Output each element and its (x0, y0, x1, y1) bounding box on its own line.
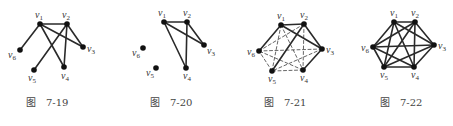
figure-caption: 图 7-20 (150, 97, 192, 108)
vertex-label-v2: v2 (62, 9, 70, 22)
vertex-v4 (61, 64, 67, 70)
vertex-v3 (431, 42, 437, 48)
edge-v2-v3 (187, 22, 204, 45)
vertex-group: v1v2v3v4v5v6 (8, 9, 95, 85)
figure-7-19: v1v2v3v4v5v6 图 7-19 (8, 9, 95, 108)
edge-v1-v2 (281, 24, 304, 25)
vertex-v6 (17, 47, 23, 53)
vertex-label-v3: v3 (207, 45, 215, 58)
figure-7-21: v1v2v3v4v5v6 图 7-21 (247, 9, 334, 108)
edge-group (373, 22, 434, 67)
vertex-label-v6: v6 (361, 42, 369, 55)
edge-v2-v3 (415, 22, 434, 45)
vertex-label-v4: v4 (300, 72, 308, 85)
edge-v3-v6 (373, 45, 434, 47)
vertex-label-v6: v6 (8, 49, 16, 62)
vertex-v6 (370, 44, 376, 50)
edge-v2-v4 (186, 22, 187, 68)
edge-v3-v4 (414, 45, 434, 67)
vertex-v6 (256, 48, 262, 54)
figure-caption: 图 7-22 (380, 97, 422, 108)
edge-v2-v4 (64, 24, 67, 67)
vertex-v3 (201, 42, 207, 48)
vertex-v2 (301, 21, 307, 27)
vertex-label-v5: v5 (268, 73, 276, 86)
edge-group (20, 24, 83, 70)
vertex-label-v1: v1 (158, 7, 166, 20)
vertex-label-v3: v3 (438, 40, 446, 53)
graph-figures-canvas: v1v2v3v4v5v6 图 7-19 v1v2v3v4v5v6 图 7-20 … (0, 0, 453, 126)
vertex-label-v4: v4 (183, 70, 191, 83)
vertex-v1 (37, 21, 43, 27)
vertex-v2 (184, 19, 190, 25)
vertex-label-v6: v6 (132, 47, 140, 60)
vertex-label-v5: v5 (146, 67, 154, 80)
edge-v2-v6 (373, 22, 415, 47)
vertex-v5 (153, 65, 159, 71)
vertex-label-v2: v2 (300, 9, 308, 22)
edge-v3-v6 (259, 49, 322, 51)
vertex-label-v2: v2 (411, 7, 419, 20)
vertex-label-v6: v6 (247, 46, 255, 59)
edge-v1-v6 (20, 24, 40, 50)
figure-caption: 图 7-19 (26, 97, 68, 108)
edge-v4-v5 (272, 70, 303, 71)
vertex-label-v3: v3 (326, 44, 334, 57)
vertex-group: v1v2v3v4v5v6 (247, 9, 334, 86)
edge-v2-v4 (303, 24, 304, 70)
vertex-v1 (391, 19, 397, 25)
vertex-v6 (140, 45, 146, 51)
vertex-label-v3: v3 (87, 43, 95, 56)
vertex-label-v4: v4 (61, 70, 69, 83)
vertex-label-v4: v4 (411, 69, 419, 82)
edge-v3-v4 (303, 49, 322, 70)
vertex-label-v1: v1 (277, 10, 285, 23)
edge-group (164, 22, 204, 68)
figure-caption: 图 7-21 (264, 97, 306, 108)
vertex-label-v5: v5 (28, 72, 36, 85)
edge-v1-v6 (259, 25, 281, 51)
edge-v2-v3 (304, 24, 322, 49)
vertex-group: v1v2v3v4v5v6 (132, 7, 215, 83)
vertex-v2 (412, 19, 418, 25)
vertex-label-v2: v2 (183, 7, 191, 20)
figure-7-20: v1v2v3v4v5v6 图 7-20 (132, 7, 215, 108)
vertex-label-v1: v1 (35, 9, 43, 22)
vertex-v1 (161, 19, 167, 25)
vertex-v1 (278, 22, 284, 28)
edge-v2-v4 (414, 22, 415, 67)
vertex-v2 (64, 21, 70, 27)
vertex-v3 (80, 44, 86, 50)
vertex-v3 (319, 46, 325, 52)
edge-v2-v6 (259, 24, 304, 51)
vertex-label-v1: v1 (390, 7, 398, 20)
figure-7-22: v1v2v3v4v5v6 图 7-22 (361, 7, 446, 108)
edge-group (259, 24, 322, 71)
vertex-label-v5: v5 (380, 69, 388, 82)
